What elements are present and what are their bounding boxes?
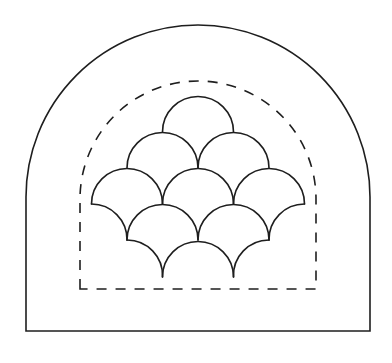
quilt-template-diagram (0, 0, 392, 363)
clamshell-arc (163, 168, 234, 204)
clamshell-arc (127, 205, 198, 240)
clamshell-arc (198, 133, 269, 169)
clamshell-arc (163, 97, 234, 133)
clamshell-arc (163, 242, 234, 278)
clamshell-boundary-arc (127, 240, 163, 277)
clamshell-arc (92, 169, 163, 204)
clamshell-arc (198, 205, 269, 241)
clamshell-boundary-arc (269, 204, 305, 240)
outer-arch-outline (26, 25, 370, 331)
clamshell-motif (92, 97, 305, 278)
clamshell-arc (127, 133, 198, 168)
clamshell-arc (234, 168, 305, 204)
dashed-inner-arch (80, 81, 316, 289)
clamshell-boundary-arc (92, 204, 128, 240)
clamshell-boundary-arc (233, 240, 269, 277)
